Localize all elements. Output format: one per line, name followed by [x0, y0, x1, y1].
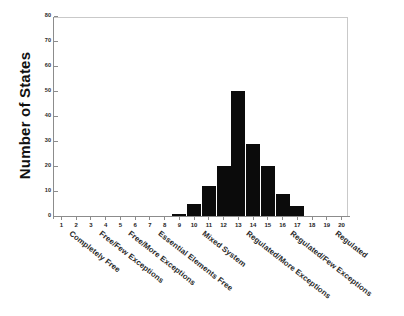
category-label: Regulated/More Exceptions [245, 229, 333, 301]
x-tick-mark [208, 216, 209, 220]
y-tick-label: 20 [45, 163, 51, 169]
x-tick-mark [341, 216, 342, 220]
x-tick-mark [238, 216, 239, 220]
bar [261, 166, 275, 216]
y-tick-mark [54, 41, 58, 42]
x-tick-mark [267, 216, 268, 220]
bar [231, 91, 245, 216]
y-tick-mark [54, 66, 58, 67]
bar [290, 206, 304, 216]
y-tick-mark [54, 16, 58, 17]
x-tick-mark [179, 216, 180, 220]
plot-area: 01020304050607080 1234567891011121314151… [53, 17, 348, 217]
y-tick-mark [54, 216, 58, 217]
bar-chart-figure: Number of States 01020304050607080 12345… [0, 0, 404, 316]
bar [202, 186, 216, 216]
x-tick-mark [326, 216, 327, 220]
y-tick-label: 50 [45, 88, 51, 94]
y-tick-label: 40 [45, 113, 51, 119]
x-tick-mark [164, 216, 165, 220]
category-label: Regulated [333, 229, 369, 260]
bar [246, 144, 260, 217]
category-label: Mixed System [200, 229, 247, 269]
x-tick-mark [297, 216, 298, 220]
bar [172, 214, 186, 217]
y-tick-mark [54, 141, 58, 142]
x-tick-mark [282, 216, 283, 220]
x-tick-mark [194, 216, 195, 220]
bar [187, 204, 201, 217]
y-tick-label: 60 [45, 63, 51, 69]
x-tick-mark [135, 216, 136, 220]
x-tick-mark [61, 216, 62, 220]
y-tick-label: 30 [45, 138, 51, 144]
y-axis-title: Number of States [16, 26, 33, 206]
y-tick-label: 70 [45, 38, 51, 44]
x-tick-label: 20 [330, 222, 354, 228]
category-label: Completely Free [68, 229, 123, 274]
y-tick-mark [54, 191, 58, 192]
x-tick-mark [76, 216, 77, 220]
y-tick-mark [54, 166, 58, 167]
x-tick-mark [149, 216, 150, 220]
x-tick-mark [312, 216, 313, 220]
x-tick-mark [90, 216, 91, 220]
x-tick-mark [223, 216, 224, 220]
x-tick-mark [105, 216, 106, 220]
x-tick-mark [253, 216, 254, 220]
y-tick-label: 80 [45, 13, 51, 19]
bar [276, 194, 290, 217]
y-tick-label: 0 [48, 213, 51, 219]
y-tick-label: 10 [45, 188, 51, 194]
category-label: Regulated/Few Exceptions [289, 229, 374, 298]
y-tick-mark [54, 91, 58, 92]
bar [217, 166, 231, 216]
x-tick-mark [120, 216, 121, 220]
y-tick-mark [54, 116, 58, 117]
